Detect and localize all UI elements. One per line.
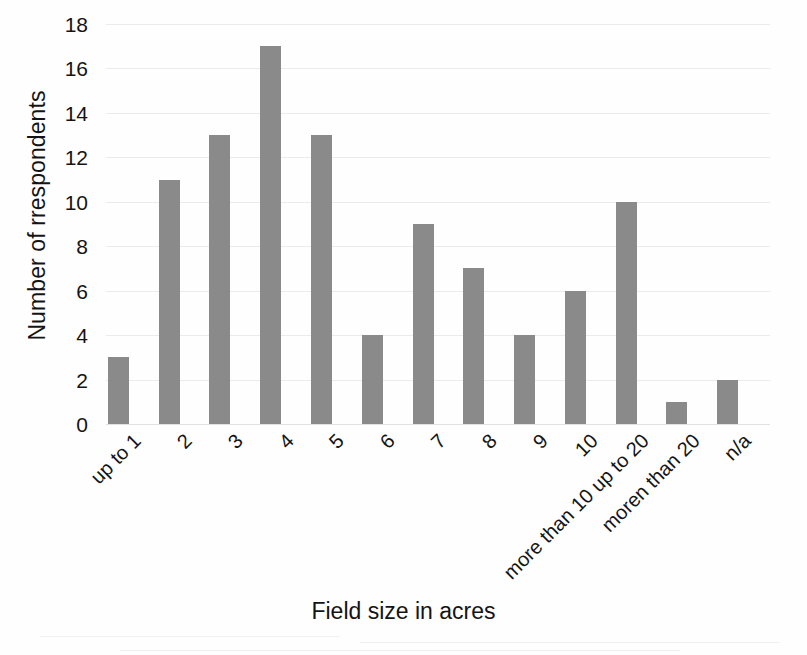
- x-axis-tick-label: 4: [275, 430, 297, 452]
- bar: [565, 291, 586, 424]
- x-axis-tick-labels: up to 12345678910more than 10 up to 20mo…: [106, 430, 806, 605]
- chart-page: Number of rrespondents 024681012141618 u…: [0, 0, 807, 655]
- bar: [108, 357, 129, 424]
- x-axis-tick-label: up to 1: [87, 430, 144, 487]
- x-axis-title: Field size in acres: [0, 598, 807, 625]
- scan-artifact: [120, 650, 680, 651]
- y-axis-tick-label: 16: [65, 58, 88, 79]
- y-axis-tick-label: 6: [76, 280, 88, 301]
- y-axis-tick-label: 2: [76, 369, 88, 390]
- bar: [413, 224, 434, 424]
- x-axis-tick-label: n/a: [720, 430, 754, 464]
- gridline: [106, 424, 770, 425]
- x-axis-tick-label: 8: [478, 430, 500, 452]
- y-axis-tick-label: 8: [76, 236, 88, 257]
- x-axis-tick-label: 5: [326, 430, 348, 452]
- y-axis-tick-label: 10: [65, 191, 88, 212]
- y-axis-tick-label: 14: [65, 102, 88, 123]
- bar: [311, 135, 332, 424]
- x-axis-tick-label: 10: [572, 430, 602, 460]
- plot-area: [106, 24, 766, 424]
- x-axis-tick-label: 9: [529, 430, 551, 452]
- bar: [666, 402, 687, 424]
- bar: [159, 180, 180, 424]
- x-axis-tick-label: 7: [427, 430, 449, 452]
- x-axis-tick-label: 3: [224, 430, 246, 452]
- bar: [514, 335, 535, 424]
- x-axis-tick-label: 6: [376, 430, 398, 452]
- scan-artifact: [360, 642, 780, 643]
- y-axis-tick-label: 0: [76, 414, 88, 435]
- scan-artifact: [40, 636, 340, 637]
- bar-series: [106, 24, 766, 424]
- bar: [260, 46, 281, 424]
- bar: [463, 268, 484, 424]
- y-axis-tick-labels: 024681012141618: [0, 24, 100, 424]
- x-axis-tick-label: 2: [173, 430, 195, 452]
- bar: [209, 135, 230, 424]
- bar: [717, 380, 738, 424]
- y-axis-tick-label: 4: [76, 325, 88, 346]
- bar: [362, 335, 383, 424]
- y-axis-tick-label: 12: [65, 147, 88, 168]
- bar: [616, 202, 637, 424]
- y-axis-tick-label: 18: [65, 14, 88, 35]
